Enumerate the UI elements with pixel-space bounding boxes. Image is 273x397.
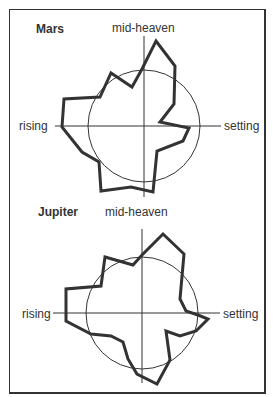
mars-chart: Mars mid-heaven rising setting — [19, 21, 259, 197]
jupiter-chart: Jupiter mid-heaven rising setting — [22, 205, 258, 384]
jupiter-title: Jupiter — [38, 205, 78, 219]
mars-mid-heaven-label: mid-heaven — [112, 21, 175, 35]
charts-svg: Mars mid-heaven rising setting Jupiter m… — [0, 0, 273, 397]
jupiter-polygon — [66, 234, 208, 384]
mars-polygon — [62, 41, 189, 192]
jupiter-mid-heaven-label: mid-heaven — [105, 205, 168, 219]
mars-setting-label: setting — [224, 119, 259, 133]
mars-title: Mars — [36, 22, 64, 36]
mars-rising-label: rising — [19, 119, 48, 133]
jupiter-setting-label: setting — [223, 307, 258, 321]
jupiter-rising-label: rising — [22, 307, 51, 321]
